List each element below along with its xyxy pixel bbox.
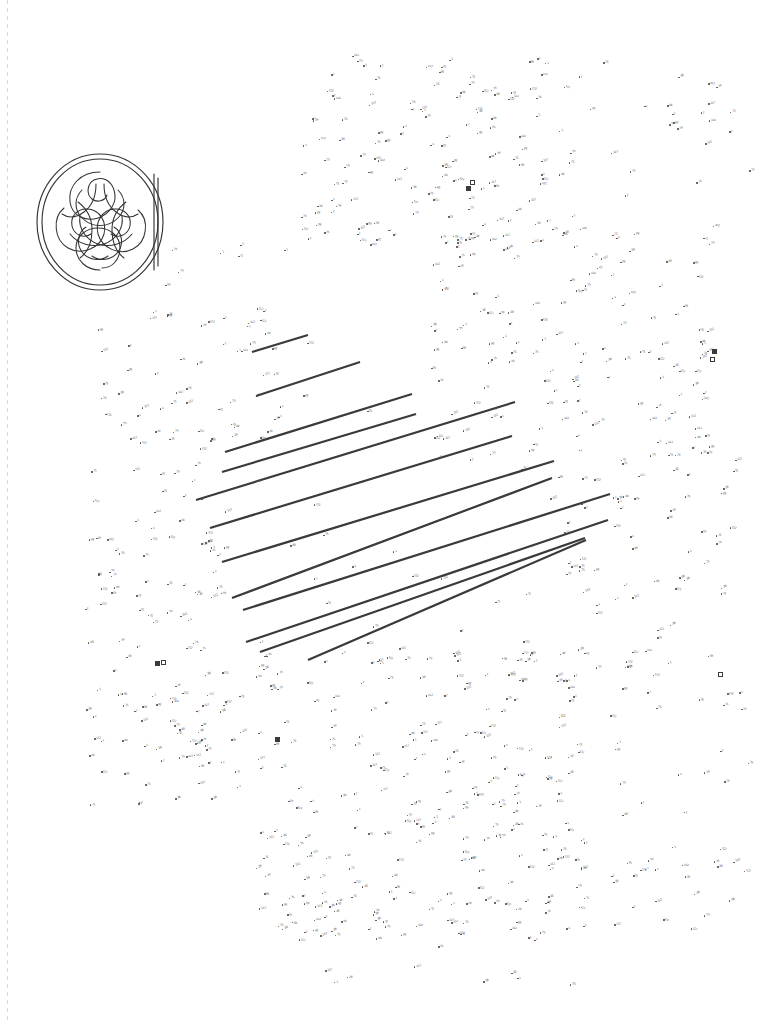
dot-number-label: 75 <box>407 813 411 817</box>
dot-number-label: 38 <box>413 185 417 189</box>
dot-number-label: 75 <box>369 832 373 836</box>
dot-number-label: 112 <box>107 413 112 417</box>
dot-number-label: 1 <box>670 661 672 665</box>
dot-number-label: 112 <box>132 436 137 440</box>
dot-number-label: 112 <box>200 780 206 785</box>
dot-number-label: 1 <box>519 800 522 804</box>
dot-number-label: 1 <box>674 112 676 116</box>
dot-number-label: 75 <box>373 707 377 711</box>
dot-number-label: 38 <box>559 475 563 479</box>
dot-number-label: 1 <box>508 219 511 223</box>
dot-number-label: 75 <box>722 592 726 596</box>
dot-number-label: 38 <box>686 875 690 879</box>
dot-number-label: 75 <box>285 720 289 724</box>
dot-number-label: 112 <box>598 611 603 615</box>
dot-number-label: 38 <box>511 359 514 363</box>
puzzle-dot <box>700 357 702 359</box>
dot-number-label: 1 <box>381 64 384 68</box>
dot-number-label: 1 <box>583 502 585 505</box>
dot-number-label: 75 <box>203 738 207 742</box>
dot-number-label: 75 <box>280 924 283 927</box>
puzzle-dot <box>205 675 207 677</box>
puzzle-dot <box>351 199 353 201</box>
dot-number-label: 112 <box>581 227 586 231</box>
dot-number-label: 1 <box>381 657 384 661</box>
dot-number-label: 38 <box>468 902 471 905</box>
dot-number-label: 1 <box>619 741 622 745</box>
dot-number-label: 1 <box>577 341 580 345</box>
dot-number-label: 75 <box>154 620 158 624</box>
puzzle-dot <box>507 247 509 249</box>
dot-number-label: 75 <box>572 983 576 987</box>
puzzle-dot <box>514 258 516 260</box>
dot-number-label: 112 <box>316 918 321 922</box>
dot-number-label: 75 <box>715 860 719 864</box>
dot-number-label: 38 <box>706 770 710 774</box>
dot-number-label: 112 <box>309 341 314 345</box>
dot-number-label: 112 <box>428 65 433 69</box>
puzzle-dot <box>704 915 706 917</box>
dot-number-label: 75 <box>359 59 363 63</box>
dot-number-label: 38 <box>439 456 443 460</box>
dot-number-label: 38 <box>616 748 620 752</box>
puzzle-dot <box>491 90 493 92</box>
puzzle-dot <box>152 696 154 698</box>
puzzle-dot <box>359 736 361 738</box>
puzzle-dot <box>592 424 594 426</box>
dot-number-label: 112 <box>258 307 264 312</box>
dot-number-label: 38 <box>672 622 676 626</box>
dot-number-label: 38 <box>181 519 184 522</box>
dot-number-label: 1 <box>581 360 584 364</box>
dot-number-label: 38 <box>319 204 323 208</box>
dot-number-label: 112 <box>227 508 233 513</box>
puzzle-dot <box>561 849 563 851</box>
dot-number-label: 38 <box>583 866 586 870</box>
dot-number-label: 112 <box>506 902 512 907</box>
dot-number-label: 38 <box>120 391 124 395</box>
dot-number-label: 38 <box>675 364 679 368</box>
dot-number-label: 75 <box>672 411 676 415</box>
dot-number-label: 75 <box>436 83 439 86</box>
puzzle-dot <box>508 312 510 314</box>
dot-number-label: 38 <box>636 497 640 501</box>
dot-number-label: 112 <box>171 719 177 724</box>
dot-number-label: 38 <box>509 245 513 249</box>
dot-number-label: 38 <box>112 591 116 595</box>
square-waypoint-marker <box>275 737 280 742</box>
dot-number-label: 38 <box>90 538 94 542</box>
dot-number-label: 38 <box>497 151 501 155</box>
puzzle-dot <box>411 187 413 189</box>
dot-number-label: 38 <box>591 107 595 111</box>
dot-number-label: 75 <box>566 530 570 534</box>
dot-number-label: 112 <box>543 73 548 77</box>
puzzle-dot <box>449 818 451 820</box>
dot-number-label: 1 <box>369 927 372 931</box>
dot-number-label: 1 <box>260 731 262 735</box>
dot-number-label: 112 <box>458 674 463 678</box>
puzzle-dot <box>240 732 242 734</box>
dot-number-label: 38 <box>510 881 514 885</box>
dot-number-label: 112 <box>542 182 547 186</box>
dot-number-label: 112 <box>399 858 404 862</box>
puzzle-dot <box>263 375 265 377</box>
puzzle-dot <box>422 111 424 113</box>
puzzle-dot <box>568 757 570 759</box>
dot-number-label: 112 <box>676 587 682 592</box>
dot-number-label: 1 <box>344 651 346 654</box>
dot-number-label: 1 <box>674 845 677 849</box>
puzzle-dot <box>395 179 397 181</box>
dot-number-label: 38 <box>257 479 261 483</box>
puzzle-dot <box>265 876 267 878</box>
dot-number-label: 38 <box>422 675 426 679</box>
dot-number-label: 1 <box>614 296 616 300</box>
dot-number-label: 75 <box>176 471 180 475</box>
dot-number-label: 75 <box>475 731 479 735</box>
dot-number-label: 75 <box>290 896 294 900</box>
dot-number-label: 1 <box>448 135 451 139</box>
dot-number-label: 112 <box>372 763 377 767</box>
puzzle-dot <box>694 894 696 896</box>
dot-number-label: 75 <box>622 781 626 785</box>
dot-number-label: 112 <box>418 924 423 928</box>
puzzle-dot <box>721 588 723 590</box>
dot-number-label: 38 <box>377 937 380 940</box>
